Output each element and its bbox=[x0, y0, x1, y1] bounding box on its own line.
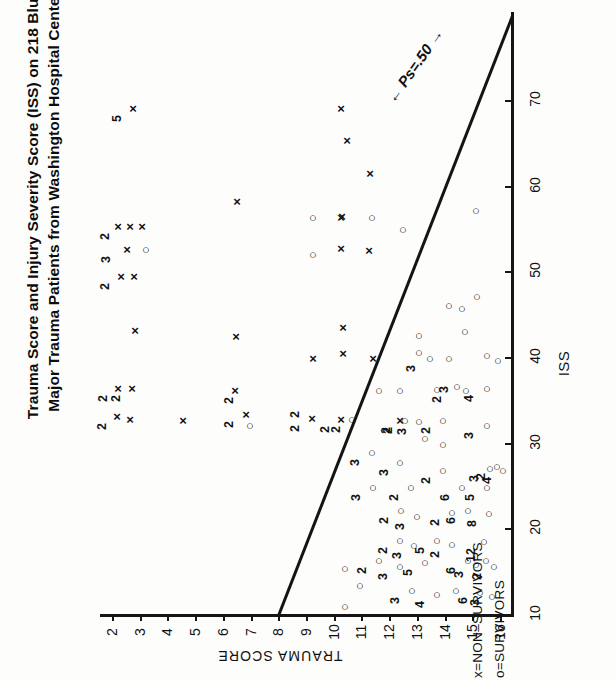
non-survivor-mark: × bbox=[308, 412, 316, 425]
survivor-mark: ○ bbox=[445, 299, 453, 312]
iss-tick bbox=[505, 443, 513, 445]
survivor-mark: ○ bbox=[309, 248, 317, 261]
iss-axis-title: ISS bbox=[555, 341, 572, 387]
figure-title: Trauma Score and Injury Severity Score (… bbox=[22, 0, 65, 421]
overplot-count-label: 2 bbox=[109, 395, 123, 402]
figure-canvas: Trauma Score and Injury Severity Score (… bbox=[0, 0, 616, 681]
overplot-count-label: 3 bbox=[390, 552, 404, 559]
survivor-mark: ○ bbox=[415, 329, 423, 342]
overplot-count-label: 2 bbox=[381, 427, 395, 434]
non-survivor-mark: × bbox=[114, 382, 122, 395]
overplot-count-label: 2 bbox=[98, 283, 112, 290]
trauma-score-tick-label: 2 bbox=[104, 619, 120, 645]
trauma-score-tick-label: 4 bbox=[159, 619, 175, 645]
survivor-mark: ○ bbox=[341, 600, 349, 613]
overplot-count-label: 4 bbox=[462, 395, 476, 402]
overplot-count-label: 5 bbox=[401, 569, 415, 576]
non-survivor-mark: × bbox=[126, 220, 134, 233]
survivor-mark: ○ bbox=[246, 419, 254, 432]
non-survivor-mark: × bbox=[131, 324, 139, 337]
survivor-mark: ○ bbox=[483, 419, 491, 432]
non-survivor-mark: × bbox=[309, 352, 317, 365]
non-survivor-mark: × bbox=[233, 195, 241, 208]
overplot-count-label: 4 bbox=[480, 477, 494, 484]
overplot-count-label: 8 bbox=[465, 520, 479, 527]
overplot-count-label: 2 bbox=[329, 426, 343, 433]
survivor-mark: ○ bbox=[480, 535, 488, 548]
trauma-score-tick-label: 10 bbox=[326, 619, 342, 645]
survivor-mark: ○ bbox=[356, 579, 364, 592]
overplot-count-label: 3 bbox=[377, 469, 391, 476]
survivor-mark: ○ bbox=[472, 204, 480, 217]
survivor-mark: ○ bbox=[461, 325, 469, 338]
overplot-count-label: 12 bbox=[464, 548, 478, 562]
iss-tick bbox=[505, 271, 513, 273]
iss-tick bbox=[505, 100, 513, 102]
overplot-count-label: 5 bbox=[110, 115, 124, 122]
non-survivor-mark: × bbox=[231, 384, 239, 397]
iss-tick bbox=[505, 357, 513, 359]
non-survivor-mark: × bbox=[117, 270, 125, 283]
overplot-count-label: 2 bbox=[470, 573, 484, 580]
overplot-count-label: 2 bbox=[96, 395, 110, 402]
survivor-mark: ○ bbox=[413, 510, 421, 523]
survivor-mark: ○ bbox=[464, 504, 472, 517]
survivor-mark: ○ bbox=[375, 554, 383, 567]
survivor-mark: ○ bbox=[309, 211, 317, 224]
iss-tick bbox=[505, 528, 513, 530]
survivor-mark: ○ bbox=[142, 243, 150, 256]
overplot-count-label: 2 bbox=[98, 233, 112, 240]
overplot-count-label: 3 bbox=[388, 597, 402, 604]
survivor-mark: ○ bbox=[482, 554, 490, 567]
iss-tick-label: 20 bbox=[527, 512, 543, 542]
overplot-count-label: 3 bbox=[395, 428, 409, 435]
survivor-mark: ○ bbox=[369, 481, 377, 494]
figure-title-line-1: Trauma Score and Injury Severity Score (… bbox=[22, 0, 43, 421]
overplot-count-label: 2 bbox=[288, 425, 302, 432]
non-survivor-mark: × bbox=[179, 414, 187, 427]
non-survivor-mark: × bbox=[337, 211, 345, 224]
overplot-count-label: 2 bbox=[95, 423, 109, 430]
survivor-mark: ○ bbox=[458, 302, 466, 315]
iss-tick-label: 10 bbox=[527, 598, 543, 628]
survivor-mark: ○ bbox=[458, 481, 466, 494]
survivor-mark: ○ bbox=[408, 584, 416, 597]
trauma-score-tick-label: 5 bbox=[187, 619, 203, 645]
non-survivor-mark: × bbox=[129, 102, 137, 115]
non-survivor-mark: × bbox=[232, 330, 240, 343]
overplot-count-label: 2 bbox=[377, 517, 391, 524]
overplot-count-label: 5 bbox=[463, 494, 477, 501]
trauma-score-tick-label: 8 bbox=[270, 619, 286, 645]
non-survivor-mark: × bbox=[337, 242, 345, 255]
non-survivor-mark: × bbox=[366, 167, 374, 180]
survivor-mark: ○ bbox=[483, 382, 491, 395]
non-survivor-mark: × bbox=[130, 270, 138, 283]
survivor-mark: ○ bbox=[490, 560, 498, 573]
survivor-mark: ○ bbox=[433, 588, 441, 601]
iss-tick-label: 50 bbox=[527, 255, 543, 285]
survivor-mark: ○ bbox=[415, 415, 423, 428]
survivor-mark: ○ bbox=[375, 384, 383, 397]
trauma-score-tick-label: 6 bbox=[215, 619, 231, 645]
trauma-score-tick-label: 3 bbox=[132, 619, 148, 645]
survivor-mark: ○ bbox=[396, 384, 404, 397]
non-survivor-mark: × bbox=[337, 102, 345, 115]
iss-tick bbox=[505, 186, 513, 188]
survivor-mark: ○ bbox=[341, 562, 349, 575]
non-survivor-mark: × bbox=[339, 321, 347, 334]
survivor-mark: ○ bbox=[473, 290, 481, 303]
iss-tick-label: 60 bbox=[527, 170, 543, 200]
figure-title-line-2: Major Trauma Patients from Washington Ho… bbox=[43, 0, 64, 421]
non-survivor-mark: × bbox=[126, 413, 134, 426]
overplot-count-label: 2 bbox=[430, 396, 444, 403]
survivor-mark: ○ bbox=[499, 464, 507, 477]
non-survivor-mark: × bbox=[343, 134, 351, 147]
survivor-mark: ○ bbox=[483, 349, 491, 362]
iss-tick-label: 30 bbox=[527, 427, 543, 457]
overplot-count-label: 2 bbox=[222, 397, 236, 404]
survivor-mark: ○ bbox=[452, 584, 460, 597]
survivor-mark: ○ bbox=[488, 590, 496, 603]
survivor-mark: ○ bbox=[397, 504, 405, 517]
overplot-count-label: 2 bbox=[428, 551, 442, 558]
overplot-count-label: 2 bbox=[376, 547, 390, 554]
